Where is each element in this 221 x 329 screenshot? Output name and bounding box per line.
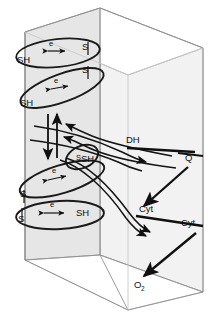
couple-3-left-label: S bbox=[20, 188, 26, 199]
diagram-canvas: SH e S SH e S S e SH S bbox=[0, 0, 221, 329]
label-o2-subscript: 2 bbox=[141, 285, 145, 292]
couple-1-left-label: SH bbox=[17, 54, 30, 65]
couple-4-carrier-label: e bbox=[50, 200, 54, 209]
couple-2-right-label: S bbox=[82, 64, 88, 75]
box-structure bbox=[25, 8, 203, 310]
couple-3-carrier-label: e bbox=[52, 166, 56, 175]
couple-1-carrier-label: e bbox=[49, 39, 53, 48]
couple-2-carrier-label: e bbox=[54, 76, 58, 85]
center-cluster-label: S bbox=[76, 153, 81, 162]
couple-2-left-label: SH bbox=[20, 97, 33, 108]
couple-4-right-label: SH bbox=[76, 207, 89, 218]
label-cyt-1: Cyt bbox=[139, 203, 154, 214]
figure-container: SH e S SH e S S e SH S bbox=[0, 0, 221, 329]
label-dh: DH bbox=[126, 134, 140, 145]
couple-1-right-label: S bbox=[82, 41, 88, 52]
couple-4-left-label: S bbox=[18, 213, 24, 224]
label-cyt-2: Cyt bbox=[181, 217, 196, 228]
